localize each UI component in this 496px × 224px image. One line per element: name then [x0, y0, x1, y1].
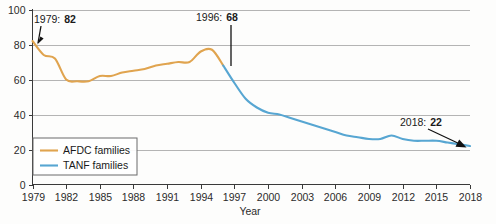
x-axis-title: Year: [239, 205, 261, 217]
annotation-2018: 2018:22: [400, 116, 467, 148]
x-tick-label-1979: 1979: [22, 191, 46, 203]
chart-container: 020406080100 197919821985198819911994199…: [0, 0, 496, 224]
x-tick-label-2009: 2009: [358, 191, 382, 203]
legend-label-afdc: AFDC families: [63, 144, 130, 156]
annotation-label-2018: 2018:22: [400, 116, 442, 128]
annotation-value-1996: 68: [226, 11, 238, 23]
line-chart: 020406080100 197919821985198819911994199…: [0, 0, 496, 224]
annotation-1979: 1979:82: [34, 13, 76, 45]
y-tick-label-0: 0: [20, 179, 26, 191]
annotation-year-1979: 1979:: [34, 13, 60, 25]
x-tick-label-2015: 2015: [425, 191, 449, 203]
data-series: [33, 41, 471, 146]
annotation-value-1979: 82: [64, 13, 76, 25]
x-tick-label-2006: 2006: [324, 191, 348, 203]
gridlines: [33, 11, 471, 151]
x-tick-label-1994: 1994: [190, 191, 214, 203]
y-tick-label-60: 60: [14, 74, 26, 86]
x-tick-label-1985: 1985: [89, 191, 113, 203]
x-tick-label-1991: 1991: [156, 191, 180, 203]
y-tick-label-20: 20: [14, 144, 26, 156]
x-tick-label-2003: 2003: [291, 191, 315, 203]
annotation-label-1979: 1979:82: [34, 13, 76, 25]
annotation-year-1996: 1996:: [196, 11, 222, 23]
y-axis-ticks: 020406080100: [8, 4, 33, 191]
annotation-year-2018: 2018:: [400, 116, 426, 128]
x-tick-label-2000: 2000: [257, 191, 281, 203]
annotation-1996: 1996:68: [196, 11, 238, 66]
x-tick-label-2018: 2018: [459, 191, 483, 203]
x-tick-label-2012: 2012: [392, 191, 416, 203]
x-tick-label-1982: 1982: [55, 191, 79, 203]
x-axis-ticks: 1979198219851988199119941997200020032006…: [22, 185, 483, 203]
annotation-label-1996: 1996:68: [196, 11, 238, 23]
x-tick-label-1988: 1988: [122, 191, 146, 203]
series-line-afdc-families: [33, 41, 224, 82]
series-line-tanf-families: [223, 66, 470, 147]
annotation-value-2018: 22: [430, 116, 442, 128]
legend-label-tanf: TANF families: [63, 159, 128, 171]
x-tick-label-1997: 1997: [223, 191, 247, 203]
y-tick-label-80: 80: [14, 39, 26, 51]
y-tick-label-40: 40: [14, 109, 26, 121]
y-tick-label-100: 100: [8, 4, 26, 16]
chart-legend: AFDC families TANF families: [33, 138, 137, 175]
